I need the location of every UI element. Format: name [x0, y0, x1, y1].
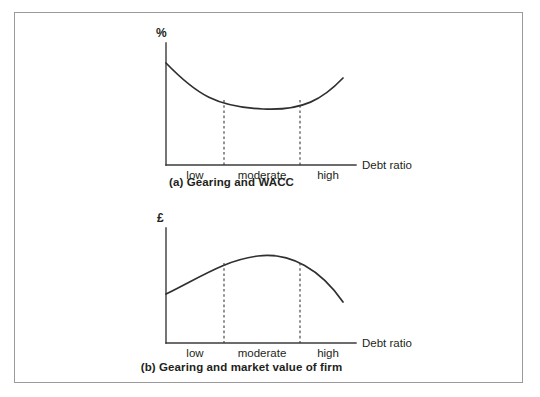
chart-a-wacc-curve — [166, 63, 343, 109]
chart-b-y-axis-label: £ — [157, 211, 164, 225]
chart-panel-b: £ Debt ratio low moderate high (b) Geari… — [15, 198, 524, 384]
chart-b-caption: (b) Gearing and market value of firm — [0, 361, 496, 373]
chart-a-y-axis-label: % — [156, 26, 167, 40]
chart-b-plot: £ Debt ratio low moderate high — [125, 206, 415, 366]
chart-b-market-value-curve — [166, 255, 343, 302]
chart-panel-a: % Debt ratio low moderate high (a) Geari… — [15, 13, 524, 198]
chart-a-x-axis-label: Debt ratio — [362, 159, 412, 171]
chart-b-tick-low: low — [186, 347, 204, 359]
chart-a-plot: % Debt ratio low moderate high — [125, 21, 415, 181]
chart-a-caption: (a) Gearing and WACC — [0, 176, 486, 188]
figure-frame: % Debt ratio low moderate high (a) Geari… — [14, 12, 523, 383]
chart-b-tick-moderate: moderate — [238, 347, 287, 359]
chart-b-x-axis-label: Debt ratio — [362, 337, 412, 349]
chart-b-tick-high: high — [317, 347, 339, 359]
